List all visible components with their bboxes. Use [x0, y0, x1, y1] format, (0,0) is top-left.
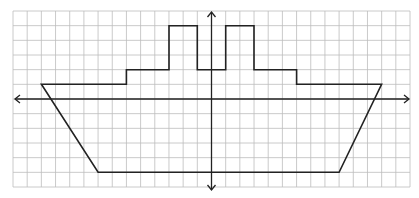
ship-grid-diagram: [0, 0, 419, 198]
axes: [15, 12, 409, 190]
diagram-canvas: [0, 0, 419, 198]
